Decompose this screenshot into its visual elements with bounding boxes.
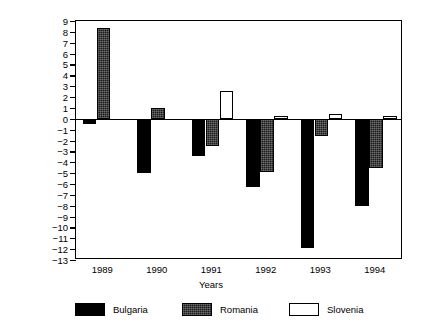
y-tick-mark [70,173,76,174]
bar-slovenia-1991 [220,91,234,119]
y-tick-label: −13 [38,255,68,266]
x-tick-label-1994: 1994 [364,264,385,275]
chart-figure: In per cent of GDP 9876543210−1−2−3−4−5−… [0,0,422,330]
bar-bulgaria-1989 [83,119,97,124]
y-tick-mark [70,238,76,239]
y-tick-label: −3 [38,146,68,157]
bar-slovenia-1994 [383,116,397,119]
y-tick-label: 5 [38,59,68,70]
y-tick-mark [70,227,76,228]
y-tick-label: −1 [38,124,68,135]
bar-bulgaria-1990 [137,119,151,173]
bar-romania-1992 [260,119,274,172]
y-tick-label: −9 [38,211,68,222]
legend-swatch-romania [182,303,212,316]
y-tick-mark [70,75,76,76]
y-tick-mark [70,162,76,163]
y-tick-label: −8 [38,200,68,211]
y-tick-label: 9 [38,16,68,27]
y-tick-label: 7 [38,37,68,48]
y-tick-mark [70,43,76,44]
y-tick-label: −4 [38,157,68,168]
bar-romania-1989 [97,28,111,119]
y-tick-mark [70,64,76,65]
legend-item-bulgaria[interactable]: Bulgaria [75,301,148,317]
legend-item-romania[interactable]: Romania [182,301,258,317]
x-tick-label-1989: 1989 [92,264,113,275]
bar-bulgaria-1993 [301,119,315,248]
y-tick-label: −2 [38,135,68,146]
y-tick-label: −12 [38,244,68,255]
legend-label-romania: Romania [220,304,258,315]
y-tick-mark [70,97,76,98]
y-tick-mark [70,151,76,152]
y-tick-label: 6 [38,48,68,59]
y-tick-mark [70,206,76,207]
legend-label-slovenia: Slovenia [327,304,363,315]
y-tick-mark [70,130,76,131]
x-tick-label-1993: 1993 [310,264,331,275]
y-tick-label: −10 [38,222,68,233]
x-tick-label-1992: 1992 [255,264,276,275]
y-tick-label: −5 [38,168,68,179]
y-tick-mark [70,54,76,55]
bar-bulgaria-1994 [355,119,369,206]
zero-baseline [76,119,401,120]
y-tick-label: 4 [38,70,68,81]
y-tick-label: 1 [38,102,68,113]
y-tick-label: −7 [38,189,68,200]
y-tick-label: 8 [38,26,68,37]
y-tick-label: −11 [38,233,68,244]
y-tick-mark [70,119,76,120]
x-axis-title: Years [0,279,422,290]
y-tick-mark [70,184,76,185]
bar-slovenia-1993 [329,114,343,118]
y-tick-mark [70,195,76,196]
y-tick-label: 0 [38,113,68,124]
y-tick-mark [70,86,76,87]
y-tick-mark [70,32,76,33]
y-tick-mark [70,21,76,22]
chart-legend: BulgariaRomaniaSlovenia [75,301,375,319]
x-tick-label-1990: 1990 [146,264,167,275]
bar-romania-1994 [369,119,383,168]
plot-area: 9876543210−1−2−3−4−5−6−7−8−9−10−11−12−13 [75,20,402,259]
legend-swatch-slovenia [289,303,319,316]
bar-romania-1993 [315,119,329,136]
x-tick-label-1991: 1991 [201,264,222,275]
bar-romania-1991 [206,119,220,146]
bar-slovenia-1992 [274,116,288,119]
bar-bulgaria-1991 [192,119,206,156]
legend-swatch-bulgaria [75,303,105,316]
y-tick-label: 2 [38,92,68,103]
y-tick-mark [70,217,76,218]
y-tick-label: −6 [38,178,68,189]
y-tick-mark [70,249,76,250]
y-tick-label: 3 [38,81,68,92]
bar-bulgaria-1992 [246,119,260,187]
y-tick-mark [70,141,76,142]
y-tick-mark [70,260,76,261]
legend-item-slovenia[interactable]: Slovenia [289,301,363,317]
legend-label-bulgaria: Bulgaria [113,304,148,315]
bar-romania-1990 [151,108,165,119]
y-tick-mark [70,108,76,109]
